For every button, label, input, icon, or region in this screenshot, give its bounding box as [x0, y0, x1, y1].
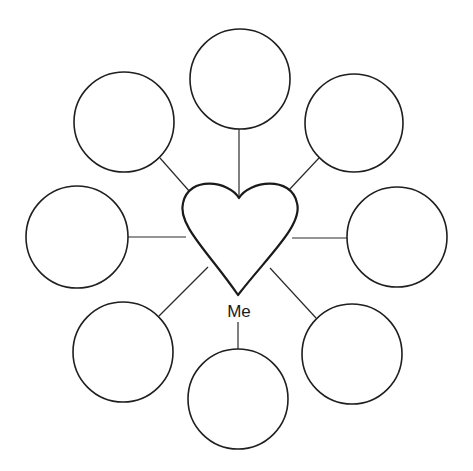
bubble-circle[interactable] [347, 187, 447, 287]
center-heart-shape [182, 184, 297, 295]
bubble-node-right[interactable] [347, 187, 447, 287]
bubble-node-upper-left[interactable] [74, 72, 174, 172]
bubble-circle[interactable] [188, 349, 288, 449]
bubble-node-lower-left[interactable] [73, 302, 173, 402]
bubble-circle[interactable] [26, 186, 128, 288]
bubble-node-upper-right[interactable] [305, 74, 403, 172]
bubble-node-lower-right[interactable] [302, 304, 402, 404]
center-label: Me [227, 303, 251, 320]
bubble-circle[interactable] [74, 72, 174, 172]
connector-line-lower-left [159, 267, 208, 316]
connector-line-lower-right [270, 268, 316, 318]
bubble-node-top[interactable] [190, 29, 290, 129]
connector-line-upper-right [288, 158, 319, 191]
bubble-node-left[interactable] [26, 186, 128, 288]
bubble-node-bottom[interactable] [188, 349, 288, 449]
bubble-circle[interactable] [302, 304, 402, 404]
bubble-circle[interactable] [190, 29, 290, 129]
bubble-map-diagram [0, 0, 473, 471]
bubble-circle[interactable] [73, 302, 173, 402]
bubble-circle[interactable] [305, 74, 403, 172]
connector-line-upper-left [160, 158, 190, 192]
